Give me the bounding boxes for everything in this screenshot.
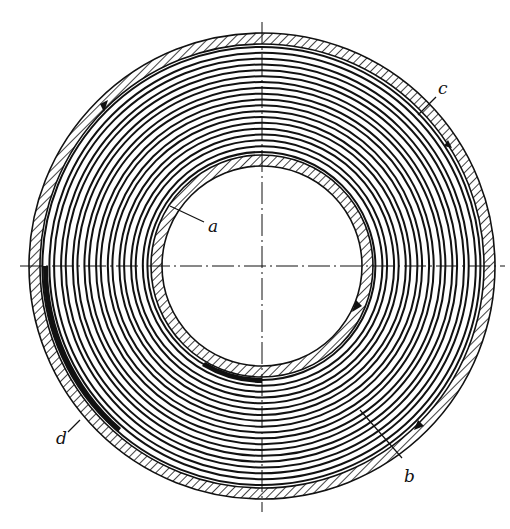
coil-cross-section-diagram: a b c d [0,0,510,529]
label-b: b [404,466,415,486]
label-d: d [56,428,67,448]
label-c: c [438,78,448,98]
label-a: a [208,216,218,236]
center-lines [20,22,505,512]
